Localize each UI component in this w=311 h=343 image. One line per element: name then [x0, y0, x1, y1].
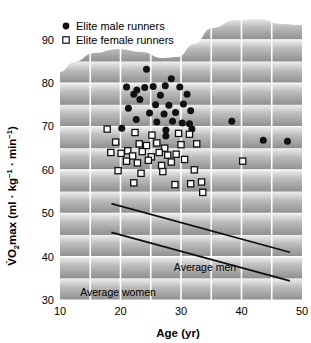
data-point-male [130, 91, 137, 98]
data-point-male [176, 83, 183, 90]
y-axis-ticks: 30405060708090 [42, 34, 54, 306]
data-point-male [228, 118, 235, 125]
data-point-female [138, 170, 144, 176]
data-point-female [173, 151, 179, 157]
data-point-female [188, 181, 194, 187]
data-point-female [198, 179, 204, 185]
data-point-male [125, 105, 132, 112]
y-tick-label: 40 [42, 251, 54, 263]
data-point-male [184, 91, 191, 98]
x-tick-label: 40 [235, 305, 247, 317]
data-point-female [165, 152, 171, 158]
legend-marker-open-square-icon [63, 37, 69, 43]
data-point-male [165, 102, 172, 109]
data-point-male [162, 133, 169, 140]
data-point-male [153, 119, 160, 126]
y-tick-label: 60 [42, 164, 54, 176]
data-point-male [172, 109, 179, 116]
average-men-label: Average men [174, 261, 236, 273]
data-point-female [143, 142, 149, 148]
data-point-female [149, 132, 155, 138]
data-point-male [169, 118, 176, 125]
y-axis-label: V̇O2max (ml · kg−1 · min−1) [5, 126, 21, 266]
x-axis-label: Age (yr) [156, 327, 200, 339]
x-axis-ticks: 1020304050 [54, 305, 308, 317]
data-point-female [132, 129, 138, 135]
data-point-female [186, 131, 192, 137]
data-point-female [104, 126, 110, 132]
x-tick-label: 50 [296, 305, 308, 317]
data-point-male [118, 125, 125, 132]
data-point-male [123, 83, 130, 90]
data-point-female [115, 168, 121, 174]
data-point-female [178, 142, 184, 148]
data-point-female [123, 158, 129, 164]
y-tick-label: 30 [42, 294, 54, 306]
data-point-female [175, 130, 181, 136]
data-point-female [108, 149, 114, 155]
data-point-male [133, 116, 140, 123]
data-point-male [162, 126, 169, 133]
data-point-female [172, 181, 178, 187]
data-point-male [180, 100, 187, 107]
data-point-female [131, 180, 137, 186]
data-point-female [113, 139, 119, 145]
data-point-female [191, 167, 197, 173]
data-point-female [130, 153, 136, 159]
chart-canvas: Average menAverage women 30405060708090 … [0, 0, 311, 343]
x-tick-label: 30 [175, 305, 187, 317]
data-point-male [152, 101, 159, 108]
data-point-male [179, 119, 186, 126]
data-point-male [157, 92, 164, 99]
data-point-female [200, 189, 206, 195]
average-women-label: Average women [80, 286, 156, 298]
vo2max-vs-age-scatter-figure: Average menAverage women 30405060708090 … [0, 0, 311, 343]
x-tick-label: 20 [114, 305, 126, 317]
x-tick-label: 10 [54, 305, 66, 317]
data-point-female [154, 140, 160, 146]
data-point-male [150, 83, 157, 90]
legend-marker-filled-circle-icon [63, 23, 70, 30]
data-point-male [168, 75, 175, 82]
data-point-female [182, 156, 188, 162]
data-point-female [118, 150, 124, 156]
data-point-female [139, 149, 145, 155]
y-tick-label: 90 [42, 34, 54, 46]
data-point-male [141, 84, 148, 91]
data-point-male [161, 110, 168, 117]
data-point-male [143, 66, 150, 73]
data-point-female [194, 141, 200, 147]
data-point-female [156, 149, 162, 155]
data-point-male [162, 82, 169, 89]
data-point-female [145, 157, 151, 163]
data-point-male [136, 96, 143, 103]
y-tick-label: 50 [42, 207, 54, 219]
data-point-male [260, 137, 267, 144]
legend: Elite male runnersElite female runners [63, 20, 175, 46]
data-point-male [146, 110, 153, 117]
y-tick-label: 70 [42, 120, 54, 132]
data-point-female [136, 141, 142, 147]
data-point-female [134, 160, 140, 166]
data-point-female [240, 158, 246, 164]
data-point-female [159, 162, 165, 168]
background-band [60, 0, 302, 18]
y-tick-label: 80 [42, 77, 54, 89]
data-point-male [284, 138, 291, 145]
data-point-male [187, 107, 194, 114]
legend-label: Elite male runners [76, 20, 165, 32]
data-point-female [168, 159, 174, 165]
legend-label: Elite female runners [76, 34, 174, 46]
svg-text:V̇O2max (ml · kg−1 · min−1): V̇O2max (ml · kg−1 · min−1) [5, 126, 21, 266]
data-point-female [160, 168, 166, 174]
